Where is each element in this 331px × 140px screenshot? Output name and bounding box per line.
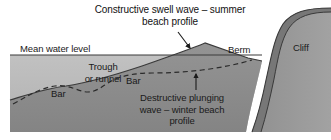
beach-profile-figure: Constructive swell wave – summer beach p…: [0, 0, 331, 140]
summer-profile-arrow: [178, 32, 190, 48]
trough-label: Trough or runnel: [76, 61, 130, 84]
bar-label-left: Bar: [51, 88, 65, 100]
winter-profile-caption: Destructive plunging wave – winter beach…: [132, 92, 232, 127]
bar-label-middle: Bar: [126, 75, 140, 87]
mean-water-level-label: Mean water level: [20, 43, 90, 55]
berm-label: Berm: [228, 44, 250, 56]
cliff-label: Cliff: [293, 42, 309, 54]
summer-profile-caption: Constructive swell wave – summer beach p…: [92, 4, 248, 27]
